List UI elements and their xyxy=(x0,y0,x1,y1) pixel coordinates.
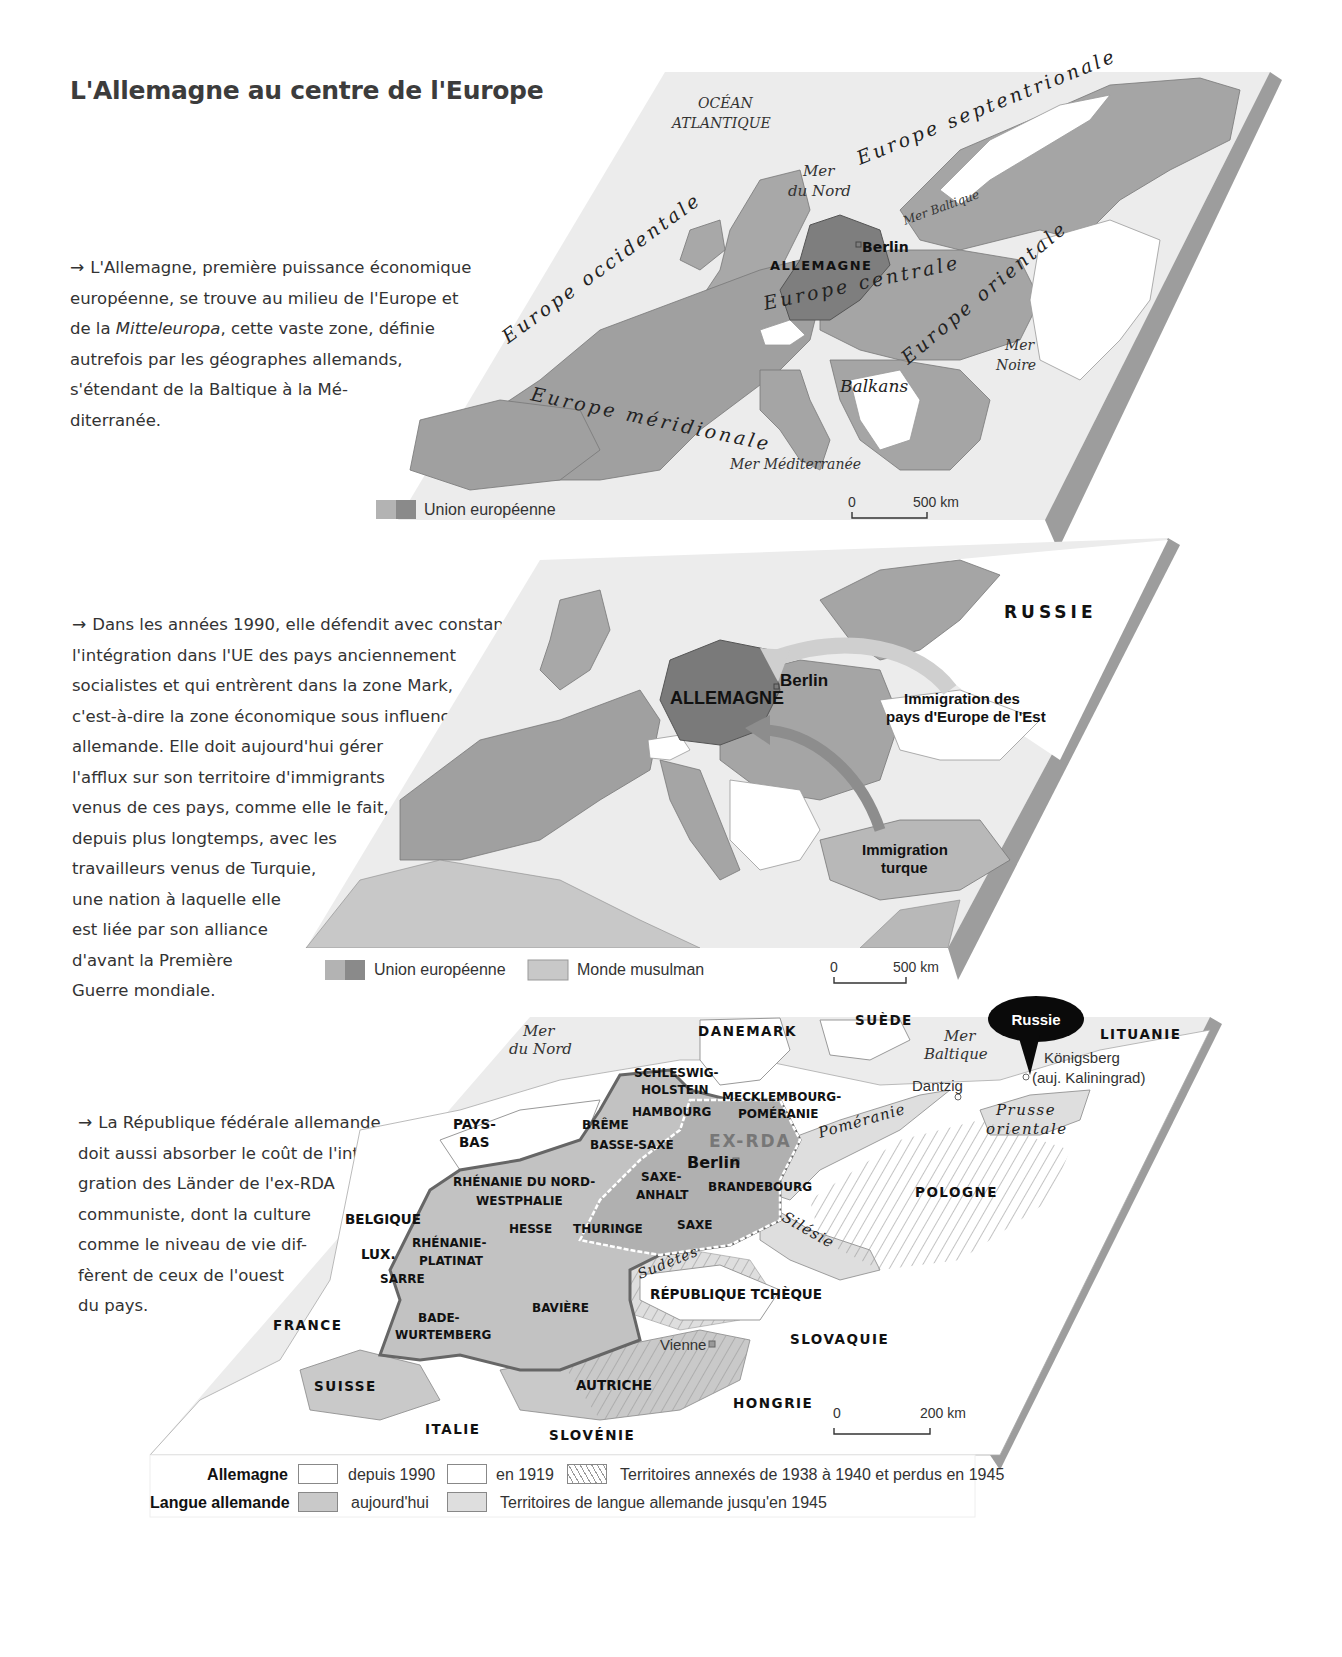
danemark-label: DANEMARK xyxy=(698,1023,797,1039)
hongrie-label: HONGRIE xyxy=(733,1395,813,1411)
maps-canvas: Berlin ALLEMAGNE OCÉAN ATLANTIQUE Mer du… xyxy=(0,0,1342,1657)
legend-annexed-label: Territoires annexés de 1938 à 1940 et pe… xyxy=(620,1466,1004,1484)
slovenie-label: SLOVÉNIE xyxy=(549,1427,635,1443)
land-hesse: HESSE xyxy=(509,1222,552,1236)
region-balkans: Balkans xyxy=(839,376,908,396)
land-schleswig-1: SCHLESWIG- xyxy=(634,1066,719,1080)
legend2-eu-swatch-dark xyxy=(345,960,365,980)
land-baviere: BAVIÈRE xyxy=(532,1300,589,1315)
paysbas-label-1: PAYS- xyxy=(453,1116,496,1132)
mediterranee-label: Mer Méditerranée xyxy=(729,456,861,472)
map1-legend-band xyxy=(385,520,1045,550)
republique-tcheque-label: RÉPUBLIQUE TCHÈQUE xyxy=(650,1286,822,1302)
scale-zero: 0 xyxy=(848,494,856,510)
berlin-label: Berlin xyxy=(862,239,909,255)
land-thuringe: THURINGE xyxy=(573,1222,643,1236)
legend-eu-label: Union européenne xyxy=(424,501,556,518)
mer-nord-label-1: Mer xyxy=(802,162,835,180)
scale3-zero: 0 xyxy=(833,1405,841,1421)
legend-eu-swatch-dark xyxy=(396,500,416,519)
legend-1919-label: en 1919 xyxy=(496,1466,554,1484)
legend-until-1945-swatch xyxy=(447,1492,487,1512)
konigsberg-marker xyxy=(1023,1074,1029,1080)
ex-rda-label: EX-RDA xyxy=(709,1131,792,1151)
map-immigration: Berlin ALLEMAGNE RUSSIE Immigration des … xyxy=(300,538,1180,988)
legend-langue-title: Langue allemande xyxy=(150,1494,288,1512)
russia-callout-label: Russie xyxy=(1011,1011,1060,1028)
dantzig-label: Dantzig xyxy=(912,1077,963,1094)
russie-label: RUSSIE xyxy=(1004,602,1097,622)
land-hambourg: HAMBOURG xyxy=(632,1105,711,1119)
vienne-marker xyxy=(709,1341,715,1347)
legend2-eu-swatch-light xyxy=(325,960,345,980)
italie-label: ITALIE xyxy=(425,1421,480,1437)
map-europe-regions: Berlin ALLEMAGNE OCÉAN ATLANTIQUE Mer du… xyxy=(376,44,1282,550)
land-sarre: SARRE xyxy=(380,1272,425,1286)
suisse-label: SUISSE xyxy=(314,1378,377,1394)
allemagne-label: ALLEMAGNE xyxy=(770,258,872,273)
mer-baltique3-1: Mer xyxy=(943,1027,976,1045)
immigration-turkey-label-2: turque xyxy=(881,859,928,876)
land-basse-saxe: BASSE-SAXE xyxy=(590,1138,674,1152)
scale2-zero: 0 xyxy=(830,959,838,975)
prusse-label-2: orientale xyxy=(986,1120,1068,1138)
land-saxe-anhalt-1: SAXE- xyxy=(641,1170,681,1184)
land-rhenanie-nord-2: WESTPHALIE xyxy=(476,1194,563,1208)
mer-baltique3-2: Baltique xyxy=(923,1045,988,1063)
belgique-label: BELGIQUE xyxy=(345,1211,421,1227)
prusse-label-1: Prusse xyxy=(995,1101,1056,1119)
dantzig-marker xyxy=(955,1094,961,1100)
mer-nord-label-2: du Nord xyxy=(788,182,851,200)
lituanie-label: LITUANIE xyxy=(1100,1026,1181,1042)
land-saxe: SAXE xyxy=(677,1218,712,1232)
legend-allemagne-title: Allemagne xyxy=(150,1466,288,1484)
slovaquie-label: SLOVAQUIE xyxy=(790,1331,889,1347)
autriche-label: AUTRICHE xyxy=(576,1377,652,1393)
paysbas-label-2: BAS xyxy=(459,1134,489,1150)
legend2-muslim-label: Monde musulman xyxy=(577,961,704,978)
legend-eu-swatch-light xyxy=(376,500,396,519)
legend-since-1990-swatch xyxy=(298,1464,338,1484)
allemagne-label-2: ALLEMAGNE xyxy=(670,688,784,708)
mer-noire-label-1: Mer xyxy=(1004,337,1036,353)
pologne-label: POLOGNE xyxy=(915,1184,998,1200)
land-bade-1: BADE- xyxy=(418,1311,460,1325)
mer-nord3-1: Mer xyxy=(522,1022,555,1040)
land-rhenanie-platinat-1: RHÉNANIE- xyxy=(412,1235,487,1250)
lux-label: LUX. xyxy=(361,1246,396,1262)
immigration-turkey-label-1: Immigration xyxy=(862,841,948,858)
immigration-east-label-2: pays d'Europe de l'Est xyxy=(886,708,1046,725)
land-brandebourg: BRANDEBOURG xyxy=(708,1180,812,1194)
scale-value: 500 km xyxy=(913,494,959,510)
mer-noire-label-2: Noire xyxy=(995,357,1036,373)
france-label: FRANCE xyxy=(273,1317,343,1333)
map-germany-history: Russie Mer du Nord Mer Baltique DANEMARK… xyxy=(150,996,1222,1517)
immigration-east-label-1: Immigration des xyxy=(904,690,1020,707)
konigsberg-label: Königsberg xyxy=(1044,1049,1120,1066)
berlin-label-3: Berlin xyxy=(687,1153,740,1172)
land-bade-2: WURTEMBERG xyxy=(395,1328,491,1342)
legend-1919-swatch xyxy=(447,1464,487,1484)
legend2-muslim-swatch xyxy=(528,960,568,980)
legend-since-1990-label: depuis 1990 xyxy=(348,1466,435,1484)
scale2-value: 500 km xyxy=(893,959,939,975)
land-breme: BRÊME xyxy=(582,1117,629,1132)
berlin-label-2: Berlin xyxy=(780,671,828,690)
scale3-value: 200 km xyxy=(920,1405,966,1421)
mer-nord3-2: du Nord xyxy=(509,1040,572,1058)
ocean-label: OCÉAN xyxy=(698,94,754,111)
land-mecklembourg-2: POMÉRANIE xyxy=(738,1106,818,1121)
vienne-label: Vienne xyxy=(660,1336,706,1353)
legend-today-label: aujourd'hui xyxy=(351,1494,429,1512)
land-saxe-anhalt-2: ANHALT xyxy=(636,1188,689,1202)
suede-label: SUÈDE xyxy=(855,1012,913,1028)
land-rhenanie-nord-1: RHÉNANIE DU NORD- xyxy=(453,1174,595,1189)
land-rhenanie-platinat-2: PLATINAT xyxy=(419,1254,484,1268)
legend-until-1945-label: Territoires de langue allemande jusqu'en… xyxy=(500,1494,827,1512)
kaliningrad-label: (auj. Kaliningrad) xyxy=(1032,1069,1145,1086)
legend-today-swatch xyxy=(298,1492,338,1512)
atlantique-label: ATLANTIQUE xyxy=(670,115,771,131)
legend2-eu-label: Union européenne xyxy=(374,961,506,978)
legend-annexed-swatch xyxy=(567,1464,607,1484)
land-schleswig-2: HOLSTEIN xyxy=(641,1083,708,1097)
